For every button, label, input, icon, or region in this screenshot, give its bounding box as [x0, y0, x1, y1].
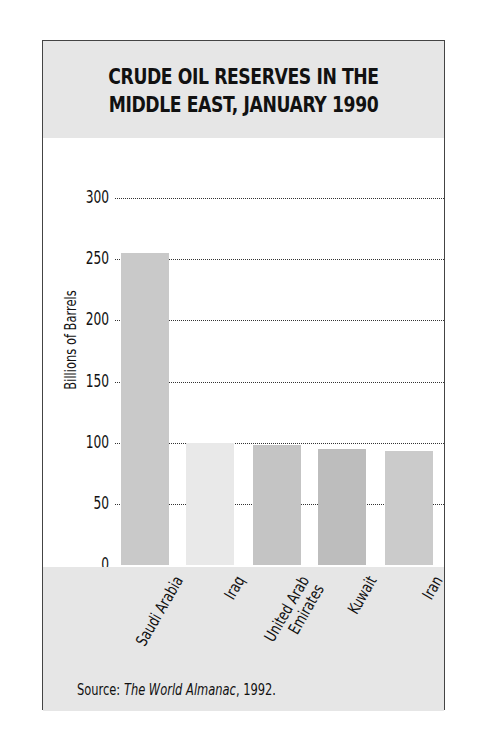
title-line-2: Middle East, January 1990 — [79, 91, 408, 119]
x-tick-label: Kuwait — [345, 573, 380, 617]
y-tick-label: 200 — [77, 310, 109, 328]
bar-saudi-arabia — [121, 253, 169, 565]
y-tick-label: 250 — [77, 249, 109, 267]
bar-iran — [385, 451, 433, 565]
y-tick-label: 50 — [77, 494, 109, 512]
title-line-1: Crude Oil Reserves in the — [79, 63, 408, 91]
category-band: Source: The World Almanac, 1992. Saudi A… — [43, 567, 444, 711]
x-tick-label: Iraq — [221, 573, 248, 602]
bar-united-arab-emirates — [253, 445, 301, 565]
source-note: Source: The World Almanac, 1992. — [77, 681, 276, 699]
bar-iraq — [186, 443, 234, 565]
title-band: Crude Oil Reserves in the Middle East, J… — [43, 41, 444, 138]
chart-frame: Crude Oil Reserves in the Middle East, J… — [42, 40, 445, 710]
x-tick-label: Saudi Arabia — [133, 573, 187, 649]
gridline — [115, 198, 444, 199]
y-tick-label: 150 — [77, 372, 109, 390]
chart-title: Crude Oil Reserves in the Middle East, J… — [79, 63, 408, 119]
x-tick-label: United ArabEmirates — [261, 573, 327, 653]
y-tick-label: 100 — [77, 433, 109, 451]
x-tick-label: Iran — [419, 573, 446, 602]
bar-kuwait — [318, 449, 366, 565]
y-tick-label: 300 — [77, 188, 109, 206]
plot-area: Billions of Barrels 050100150200250300 — [43, 138, 444, 567]
source-title: The World Almanac — [124, 681, 236, 699]
